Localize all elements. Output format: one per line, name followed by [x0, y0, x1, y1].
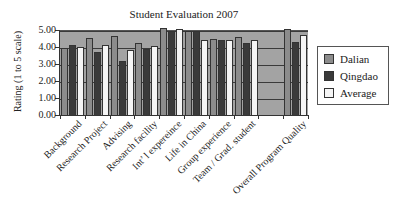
bar-dalian — [185, 31, 192, 116]
bar-dalian — [111, 36, 118, 116]
bar-qingdao — [119, 61, 126, 116]
bar-average — [77, 47, 84, 116]
bar-dalian — [86, 38, 93, 116]
legend-item-qingdao: Qingdao — [324, 69, 378, 83]
x-tick — [308, 115, 309, 119]
legend-label: Dalian — [340, 53, 369, 65]
bar-average — [300, 35, 307, 116]
x-tick — [85, 115, 86, 119]
bar-average — [151, 46, 158, 116]
bar-average — [201, 40, 208, 117]
y-tick-label: 1.00 — [39, 93, 57, 103]
bar-dalian — [135, 43, 142, 116]
bar-qingdao — [168, 31, 175, 116]
x-tick — [209, 115, 210, 119]
bar-qingdao — [243, 43, 250, 116]
legend-item-dalian: Dalian — [324, 52, 369, 66]
x-tick — [134, 115, 135, 119]
plot-area — [60, 30, 308, 116]
bar-dalian — [61, 48, 68, 116]
legend: DalianQingdaoAverage — [317, 46, 389, 105]
y-tick-label: 5.00 — [39, 25, 57, 35]
bar-qingdao — [94, 52, 101, 116]
y-axis — [59, 30, 60, 116]
bar-average — [176, 29, 183, 116]
bar-average — [127, 50, 134, 116]
legend-label: Qingdao — [340, 70, 378, 82]
y-tick-label: 4.00 — [39, 42, 57, 52]
bar-qingdao — [193, 31, 200, 116]
legend-label: Average — [340, 87, 376, 99]
x-tick — [60, 115, 61, 119]
legend-swatch-icon — [324, 88, 334, 98]
bar-average — [251, 40, 258, 117]
x-tick — [283, 115, 284, 119]
bar-average — [226, 40, 233, 117]
y-axis-label: Rating (1 to 5 scale) — [12, 17, 23, 127]
x-tick — [258, 115, 259, 119]
legend-swatch-icon — [324, 71, 334, 81]
y-tick-label: 0.00 — [39, 110, 57, 120]
bar-qingdao — [143, 49, 150, 116]
chart-title: Student Evaluation 2007 — [60, 8, 308, 20]
bar-qingdao — [218, 40, 225, 117]
legend-item-average: Average — [324, 86, 376, 100]
x-tick — [110, 115, 111, 119]
bar-dalian — [210, 39, 217, 116]
bar-average — [102, 45, 109, 116]
x-tick — [234, 115, 235, 119]
bar-dalian — [160, 28, 167, 116]
bar-qingdao — [69, 45, 76, 116]
legend-swatch-icon — [324, 54, 334, 64]
y-tick-label: 3.00 — [39, 59, 57, 69]
y-tick-label: 2.00 — [39, 76, 57, 86]
x-tick — [184, 115, 185, 119]
bar-dalian — [284, 29, 291, 116]
x-tick — [159, 115, 160, 119]
bar-dalian — [235, 37, 242, 116]
bar-qingdao — [292, 42, 299, 116]
